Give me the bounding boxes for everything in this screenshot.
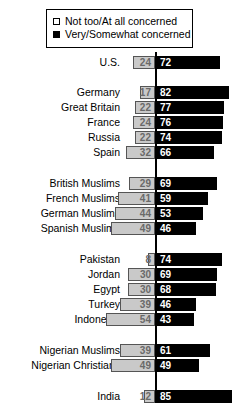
bar-value-concerned: 74 bbox=[160, 254, 171, 265]
bar-row: U.S.2472 bbox=[0, 55, 237, 70]
bar-value-concerned: 49 bbox=[160, 360, 171, 371]
bar-value-not-concerned: 39 bbox=[140, 345, 151, 356]
legend-label-not-concerned: Not too/At all concerned bbox=[65, 16, 177, 27]
bar-value-concerned: 82 bbox=[160, 87, 171, 98]
bar-concerned: 74 bbox=[155, 253, 222, 266]
bar-value-not-concerned: 24 bbox=[140, 117, 151, 128]
bar-not-concerned: 54 bbox=[106, 313, 155, 326]
bar-value-not-concerned: 12 bbox=[140, 391, 151, 402]
bar-value-not-concerned: 30 bbox=[140, 284, 151, 295]
bar-row-label: Spain bbox=[0, 145, 120, 160]
bar-row: Pakistan874 bbox=[0, 252, 237, 267]
bar-row-label: India bbox=[0, 389, 120, 404]
bar-value-not-concerned: 30 bbox=[140, 269, 151, 280]
bar-concerned: 49 bbox=[155, 359, 199, 372]
bar-row-label: U.S. bbox=[0, 55, 120, 70]
bar-row-label: Nigerian Christians bbox=[0, 358, 120, 373]
bar-row: Turkey3946 bbox=[0, 297, 237, 312]
bar-row-label: Germany bbox=[0, 85, 120, 100]
bar-row-label: Russia bbox=[0, 130, 120, 145]
bar-row: Nigerian Christians4949 bbox=[0, 358, 237, 373]
bar-value-not-concerned: 41 bbox=[140, 193, 151, 204]
bar-value-not-concerned: 44 bbox=[140, 208, 151, 219]
bar-row: Great Britain2277 bbox=[0, 100, 237, 115]
legend-label-concerned: Very/Somewhat concerned bbox=[65, 29, 191, 40]
bar-value-not-concerned: 32 bbox=[140, 147, 151, 158]
bar-row: Indonesia5443 bbox=[0, 312, 237, 327]
bar-value-concerned: 85 bbox=[160, 391, 171, 402]
bar-row-label: France bbox=[0, 115, 120, 130]
bar-row-label: Pakistan bbox=[0, 252, 120, 267]
bar-not-concerned: 22 bbox=[135, 101, 155, 114]
bar-concerned: 82 bbox=[155, 86, 229, 99]
bar-value-not-concerned: 29 bbox=[140, 178, 151, 189]
bar-value-concerned: 59 bbox=[160, 193, 171, 204]
bar-not-concerned: 12 bbox=[144, 390, 155, 403]
bar-value-concerned: 46 bbox=[160, 299, 171, 310]
bar-value-not-concerned: 49 bbox=[140, 223, 151, 234]
bar-value-not-concerned: 54 bbox=[140, 314, 151, 325]
bar-row-label: Great Britain bbox=[0, 100, 120, 115]
bar-concerned: 69 bbox=[155, 268, 217, 281]
bar-value-concerned: 61 bbox=[160, 345, 171, 356]
bar-value-concerned: 46 bbox=[160, 223, 171, 234]
open-square-icon bbox=[53, 18, 60, 25]
bar-not-concerned: 49 bbox=[111, 359, 155, 372]
bar-value-concerned: 69 bbox=[160, 178, 171, 189]
bar-row: India1285 bbox=[0, 389, 237, 404]
bar-not-concerned: 29 bbox=[129, 177, 155, 190]
bar-row: Egypt3068 bbox=[0, 282, 237, 297]
bar-value-concerned: 72 bbox=[160, 57, 171, 68]
bar-not-concerned: 44 bbox=[115, 207, 155, 220]
bar-row: Spain3266 bbox=[0, 145, 237, 160]
bar-concerned: 68 bbox=[155, 283, 216, 296]
filled-square-icon bbox=[53, 31, 60, 38]
diverging-bar-chart: Not too/At all concerned Very/Somewhat c… bbox=[0, 0, 237, 404]
bar-row-label: German Muslims bbox=[0, 206, 120, 221]
bar-not-concerned: 49 bbox=[111, 222, 155, 235]
bar-not-concerned: 17 bbox=[140, 86, 155, 99]
bar-value-concerned: 68 bbox=[160, 284, 171, 295]
bar-concerned: 46 bbox=[155, 298, 196, 311]
bar-row: Germany1782 bbox=[0, 85, 237, 100]
bar-row: Russia2274 bbox=[0, 130, 237, 145]
bar-value-not-concerned: 49 bbox=[140, 360, 151, 371]
bar-row: Spanish Muslims4946 bbox=[0, 221, 237, 236]
bar-value-not-concerned: 24 bbox=[140, 57, 151, 68]
bar-concerned: 76 bbox=[155, 116, 223, 129]
bar-row: Jordan3069 bbox=[0, 267, 237, 282]
bar-not-concerned: 8 bbox=[148, 253, 155, 266]
bar-value-concerned: 66 bbox=[160, 147, 171, 158]
bar-value-concerned: 74 bbox=[160, 132, 171, 143]
bar-concerned: 74 bbox=[155, 131, 222, 144]
bar-row-label: Indonesia bbox=[0, 312, 120, 327]
bar-value-concerned: 77 bbox=[160, 102, 171, 113]
bar-row-label: Egypt bbox=[0, 282, 120, 297]
bar-value-concerned: 76 bbox=[160, 117, 171, 128]
bar-concerned: 46 bbox=[155, 222, 196, 235]
bar-concerned: 66 bbox=[155, 146, 214, 159]
bar-concerned: 85 bbox=[155, 390, 232, 403]
bar-row: German Muslims4453 bbox=[0, 206, 237, 221]
bar-value-not-concerned: 22 bbox=[140, 102, 151, 113]
bar-concerned: 61 bbox=[155, 344, 210, 357]
bar-not-concerned: 39 bbox=[120, 344, 155, 357]
chart-legend: Not too/At all concerned Very/Somewhat c… bbox=[46, 9, 193, 48]
bar-not-concerned: 39 bbox=[120, 298, 155, 311]
legend-item-concerned: Very/Somewhat concerned bbox=[53, 29, 187, 40]
bar-row-label: Turkey bbox=[0, 297, 120, 312]
bar-value-concerned: 43 bbox=[160, 314, 171, 325]
bar-not-concerned: 32 bbox=[126, 146, 155, 159]
bar-value-not-concerned: 22 bbox=[140, 132, 151, 143]
bar-row: France2476 bbox=[0, 115, 237, 130]
bar-row: British Muslims2969 bbox=[0, 176, 237, 191]
bar-value-concerned: 53 bbox=[160, 208, 171, 219]
bar-row-label: Nigerian Muslims bbox=[0, 343, 120, 358]
bar-concerned: 69 bbox=[155, 177, 217, 190]
bar-value-concerned: 69 bbox=[160, 269, 171, 280]
bar-row-label: Spanish Muslims bbox=[0, 221, 120, 236]
plot-area: U.S.2472Germany1782Great Britain2277Fran… bbox=[0, 52, 237, 404]
bar-not-concerned: 24 bbox=[133, 116, 155, 129]
bar-not-concerned: 24 bbox=[133, 56, 155, 69]
legend-item-not-concerned: Not too/At all concerned bbox=[53, 16, 187, 27]
